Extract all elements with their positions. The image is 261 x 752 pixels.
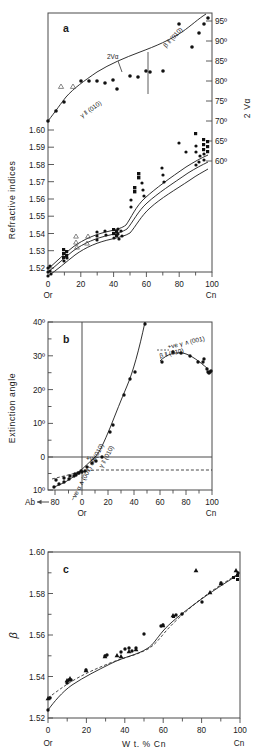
panel-b-annotations: +ve −ve α ∧ (001) on (010) γ ‖ (010) +ve…	[69, 335, 206, 503]
panel-a-ytick-r-6: 65º	[215, 137, 227, 146]
panel-c-y-ticks	[48, 552, 53, 718]
panel-a-ytick-3: 1.57	[29, 178, 45, 187]
panel-b-ytick-5: 10º	[33, 486, 45, 495]
panel-a-ytick-r-3: 80º	[215, 77, 227, 86]
panel-a-left-tick-labels: 1.60 1.59 1.58 1.57 1.56 1.55 1.54 1.53 …	[29, 126, 45, 273]
panel-a-xtick-4: 80	[175, 280, 185, 289]
panel-b-ab-arrow-head	[37, 500, 42, 504]
panel-c-xtick-2: 40	[120, 726, 130, 735]
panel-b-y-ticks	[48, 322, 53, 490]
panel-b-xtick-6: 100	[205, 498, 219, 507]
panel-a-points-ri	[46, 132, 209, 278]
panel-a-ytick-0: 1.60	[29, 126, 45, 135]
panel-a-x-ticks	[48, 272, 212, 277]
panel-b-x-end-left: Ab	[25, 498, 35, 507]
panel-a-ytick-r-0: 95º	[215, 17, 227, 26]
panel-b-xtick-5: 80	[181, 498, 191, 507]
panel-c-x-end-left: Or	[43, 739, 52, 748]
panel-a-xtick-3: 60	[142, 280, 152, 289]
panel-a-ytick-2: 1.58	[29, 161, 45, 170]
panel-a-ytick-8: 1.52	[29, 264, 45, 273]
panel-c-xtick-0: 0	[46, 726, 51, 735]
panel-b-xtick-4: 60	[155, 498, 165, 507]
panel-a-xtick-0: 0	[46, 280, 51, 289]
panel-a-points-2v	[46, 16, 210, 123]
panel-a-xtick-2: 40	[109, 280, 119, 289]
panel-c-ylabel: β	[7, 631, 19, 639]
panel-a-ytick-r-5: 70º	[215, 117, 227, 126]
panel-a-xtick-1: 20	[76, 280, 86, 289]
panel-a-ytick-r-1: 90º	[215, 37, 227, 46]
panel-b-annot-neg: −ve α ∧ (001) on (010)	[69, 442, 106, 502]
panel-c-ytick-2: 1.56	[29, 631, 45, 640]
panel-b-x-mid-label: Or	[77, 509, 86, 518]
panel-a-ytick-6: 1.54	[29, 230, 45, 239]
panel-b-xtick-1: 0	[80, 498, 85, 507]
panel-a-open-triangles-2v	[58, 84, 75, 88]
panel-b-ytick-0: 40º	[33, 318, 45, 327]
panel-a-curve-beta	[48, 162, 208, 272]
panel-b-y-tick-labels: 40º 30º 20º 10º 0 10º	[33, 318, 46, 495]
panel-c-xtick-1: 20	[82, 726, 92, 735]
panel-a-annotations: 2Vα β ‖ (010) γ ‖ (010)	[79, 26, 185, 120]
panel-a-ytick-r-7: 60º	[215, 157, 227, 166]
panel-b-plot-frame	[48, 322, 212, 490]
panel-b-xtick-0: 80	[50, 498, 60, 507]
panel-a-xtick-5: 100	[205, 280, 219, 289]
panel-a-annot-2v: 2Vα	[107, 53, 119, 60]
panel-c-points-dashed	[46, 568, 239, 700]
panel-c-id: c	[63, 563, 69, 575]
panel-b-id: b	[63, 333, 69, 345]
panel-a-ylabel-left: Refractive indices	[7, 161, 17, 240]
figure-root: 1.60 1.59 1.58 1.57 1.56 1.55 1.54 1.53 …	[0, 0, 261, 752]
panel-b-ytick-3: 10º	[33, 419, 45, 428]
panel-a-ytick-4: 1.56	[29, 195, 45, 204]
panel-c: 1.60 1.58 1.56 1.54 1.52	[0, 530, 261, 752]
panel-c-xtick-5: 100	[233, 726, 247, 735]
panel-a-x-end-left: Or	[43, 291, 52, 300]
panel-a-id: a	[63, 22, 69, 34]
panel-b-ytick-1: 30º	[33, 352, 45, 361]
panel-c-x-tick-labels: 0 20 40 60 80 100	[46, 726, 248, 735]
panel-a: 1.60 1.59 1.58 1.57 1.56 1.55 1.54 1.53 …	[0, 0, 261, 300]
panel-b-ytick-2: 20º	[33, 386, 45, 395]
panel-b-xtick-2: 20	[103, 498, 113, 507]
panel-a-ytick-r-4: 75º	[215, 97, 227, 106]
panel-a-annot-gamma: γ ‖ (010)	[79, 99, 104, 119]
panel-c-x-ticks	[48, 718, 240, 723]
panel-a-ytick-7: 1.53	[29, 247, 45, 256]
panel-c-svg: 1.60 1.58 1.56 1.54 1.52	[0, 530, 261, 752]
panel-b-x-end-right: Cn	[206, 509, 217, 518]
panel-c-xtick-3: 60	[159, 726, 169, 735]
panel-a-ytick-r-2: 85º	[215, 57, 227, 66]
panel-c-ytick-0: 1.60	[29, 548, 45, 557]
panel-c-ytick-1: 1.58	[29, 590, 45, 599]
panel-a-ytick-5: 1.55	[29, 212, 45, 221]
panel-a-svg: 1.60 1.59 1.58 1.57 1.56 1.55 1.54 1.53 …	[0, 0, 261, 300]
panel-c-curve-solid	[48, 575, 238, 710]
panel-a-annot-beta: β ‖ (010)	[162, 26, 185, 50]
panel-c-ytick-4: 1.52	[29, 714, 45, 723]
panel-a-ylabel-right: 2 Vα	[242, 98, 252, 118]
panel-c-xlabel: W t. % Cn	[122, 739, 166, 749]
panel-b-xtick-3: 40	[129, 498, 139, 507]
panel-c-ytick-3: 1.54	[29, 673, 45, 682]
panel-b-annot-pos2: β ‖ (010)	[159, 347, 185, 360]
panel-a-right-tick-labels: 95º 90º 85º 80º 75º 70º 65º 60º	[215, 17, 227, 166]
panel-b-ylabel: Extinction angle	[7, 373, 17, 443]
panel-c-xtick-4: 80	[197, 726, 207, 735]
panel-a-left-ticks	[48, 130, 54, 268]
panel-b-ytick-4: 0	[40, 453, 45, 462]
panel-c-y-tick-labels: 1.60 1.58 1.56 1.54 1.52	[29, 548, 45, 723]
panel-b: 40º 30º 20º 10º 0 10º	[0, 300, 261, 530]
panel-a-ytick-1: 1.59	[29, 143, 45, 152]
panel-a-x-tick-labels: 0 20 40 60 80 100	[46, 280, 220, 289]
panel-c-x-end-right: Cn	[234, 739, 245, 748]
panel-b-svg: 40º 30º 20º 10º 0 10º	[0, 300, 261, 530]
panel-a-x-end-right: Cn	[206, 291, 217, 300]
